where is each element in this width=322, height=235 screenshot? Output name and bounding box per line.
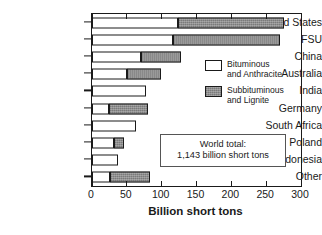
category-tick xyxy=(84,124,91,125)
bar-segment-bituminous xyxy=(92,155,118,166)
bar-segment-subbituminous xyxy=(109,103,147,114)
category-tick xyxy=(84,176,91,177)
bar-segment-bituminous xyxy=(92,103,109,114)
world-total-line1: World total: xyxy=(163,139,283,150)
category-tick xyxy=(84,21,91,22)
category-tick xyxy=(84,159,91,160)
world-total-line2: 1,143 billion short tons xyxy=(163,150,283,161)
x-tick-label: 300 xyxy=(291,188,309,200)
legend-swatch-subbituminous-icon xyxy=(205,86,222,97)
legend-label-bituminous-line1: Bituminous xyxy=(227,59,270,69)
coal-reserves-bar-chart: United StatesFSUChinaAustraliaIndiaGerma… xyxy=(0,0,322,235)
bar-segment-bituminous xyxy=(92,120,136,131)
x-tick-top xyxy=(161,14,162,19)
bar-china xyxy=(92,52,181,63)
bar-fsu xyxy=(92,34,280,45)
bar-segment-bituminous xyxy=(92,86,146,97)
category-tick xyxy=(84,55,91,56)
x-tick-top xyxy=(301,14,302,19)
legend-entry-bituminous: Bituminous and Anthracite xyxy=(205,60,284,79)
legend-label-bituminous: Bituminous and Anthracite xyxy=(227,60,282,79)
bar-segment-bituminous xyxy=(92,138,114,149)
x-tick-label: 50 xyxy=(120,188,132,200)
bar-segment-subbituminous xyxy=(173,34,280,45)
legend-label-bituminous-line2: and Anthracite xyxy=(227,70,282,80)
bar-segment-subbituminous xyxy=(114,138,124,149)
bar-segment-bituminous xyxy=(92,17,178,28)
bar-germany xyxy=(92,103,148,114)
bar-segment-subbituminous xyxy=(110,172,150,183)
x-axis-title: Billion short tons xyxy=(91,205,300,217)
legend-label-subbituminous-line1: Subbituminous xyxy=(227,85,284,95)
x-tick-bottom xyxy=(92,181,93,186)
x-tick-label: 200 xyxy=(222,188,240,200)
bar-poland xyxy=(92,138,124,149)
legend-entry-subbituminous: Subbituminous and Lignite xyxy=(205,86,284,105)
x-tick-top xyxy=(126,14,127,19)
x-tick-label: 100 xyxy=(152,188,170,200)
x-tick-top xyxy=(231,14,232,19)
bar-south-africa xyxy=(92,120,136,131)
x-tick-bottom xyxy=(161,181,162,186)
x-tick-top xyxy=(92,14,93,19)
category-tick xyxy=(84,107,91,108)
category-tick xyxy=(84,38,91,39)
x-tick-label: 250 xyxy=(256,188,274,200)
category-tick xyxy=(84,90,91,91)
x-tick-bottom xyxy=(301,181,302,186)
legend: Bituminous and Anthracite Subbituminous … xyxy=(205,60,284,112)
x-tick-top xyxy=(266,14,267,19)
legend-swatch-bituminous-icon xyxy=(205,60,222,71)
bar-australia xyxy=(92,69,161,80)
category-tick xyxy=(84,141,91,142)
bar-indonesia xyxy=(92,155,118,166)
world-total-annotation: World total: 1,143 billion short tons xyxy=(160,134,286,167)
bar-india xyxy=(92,86,146,97)
category-tick xyxy=(84,73,91,74)
bar-segment-bituminous xyxy=(92,52,141,63)
bar-segment-subbituminous xyxy=(127,69,161,80)
legend-label-subbituminous: Subbituminous and Lignite xyxy=(227,86,284,105)
bar-segment-bituminous xyxy=(92,69,127,80)
x-tick-bottom xyxy=(231,181,232,186)
x-tick-top xyxy=(196,14,197,19)
x-tick-label: 0 xyxy=(88,188,94,200)
x-tick-bottom xyxy=(266,181,267,186)
x-tick-bottom xyxy=(126,181,127,186)
x-tick-bottom xyxy=(196,181,197,186)
bar-segment-bituminous xyxy=(92,34,173,45)
x-tick-label: 150 xyxy=(187,188,205,200)
bar-other xyxy=(92,172,150,183)
bar-segment-bituminous xyxy=(92,172,110,183)
bar-segment-subbituminous xyxy=(141,52,181,63)
legend-label-subbituminous-line2: and Lignite xyxy=(227,96,284,106)
bar-united-states xyxy=(92,17,284,28)
